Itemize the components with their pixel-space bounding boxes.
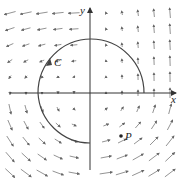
field-arrow [151, 121, 156, 129]
field-arrow [24, 60, 28, 62]
field-arrow [132, 170, 144, 175]
field-arrow [25, 105, 27, 113]
field-arrow [137, 106, 140, 112]
field-arrow [102, 140, 110, 142]
field-arrow [54, 155, 63, 159]
field-arrow [170, 24, 171, 34]
field-arrow [52, 12, 63, 13]
field-arrow [69, 172, 80, 174]
field-arrow [22, 28, 31, 30]
field-arrow [135, 122, 140, 128]
field-arrow [38, 154, 47, 160]
field-arrow [8, 120, 12, 130]
field-arrow [149, 170, 160, 177]
field-arrow [5, 169, 14, 178]
field-arrow [122, 27, 123, 31]
field-arrow [9, 104, 11, 114]
field-arrow [73, 77, 75, 78]
field-arrow [53, 171, 64, 175]
field-arrow [122, 11, 123, 15]
field-arrow [105, 108, 108, 110]
field-arrow [165, 153, 174, 162]
field-arrow [138, 10, 139, 16]
field-arrow [4, 12, 15, 15]
field-arrow [68, 13, 79, 14]
field-arrow [134, 138, 142, 144]
field-arrow [24, 121, 28, 129]
field-arrow [149, 153, 159, 161]
field-arrow [22, 153, 31, 161]
y-axis-label: y [79, 4, 85, 16]
field-arrow [169, 104, 172, 114]
field-arrow [70, 156, 79, 158]
field-arrow [119, 123, 124, 127]
field-arrow [70, 29, 79, 30]
curve-label: C [54, 56, 62, 68]
field-arrow [57, 107, 59, 111]
field-arrow [7, 44, 14, 47]
field-arrow [133, 154, 144, 160]
point-label: P [124, 130, 132, 142]
field-arrow [6, 28, 15, 31]
field-arrow [150, 137, 158, 145]
field-arrow [8, 60, 12, 63]
field-arrow [41, 76, 43, 78]
field-arrow [56, 123, 60, 127]
field-arrow [39, 138, 45, 144]
field-arrow [72, 124, 76, 126]
field-arrow [37, 170, 48, 176]
field-arrow [106, 12, 107, 14]
vector-field-diagram: y x C P [0, 0, 188, 182]
field-arrow [21, 169, 31, 177]
field-arrow [38, 28, 47, 30]
field-arrow [167, 120, 172, 130]
curve-c [38, 39, 144, 143]
field-arrow [103, 124, 108, 126]
field-arrow [73, 108, 75, 110]
field-arrow [55, 44, 62, 45]
field-arrow [72, 61, 76, 62]
field-arrow [23, 137, 29, 145]
point-p [119, 134, 123, 138]
field-arrow [40, 122, 44, 128]
field-arrow [165, 169, 175, 177]
field-arrow [20, 12, 31, 14]
x-axis-label: x [170, 93, 176, 105]
field-arrow [9, 76, 11, 79]
field-arrow [57, 76, 59, 77]
field-arrow [39, 44, 46, 46]
field-arrow [40, 60, 44, 62]
field-arrow [23, 44, 30, 46]
field-arrow [55, 139, 61, 143]
field-arrow [106, 28, 107, 30]
field-arrow [116, 171, 128, 175]
field-arrow [100, 172, 113, 174]
field-arrow [54, 28, 63, 29]
field-arrow [7, 136, 13, 146]
field-arrow [166, 136, 174, 146]
field-arrow [170, 8, 171, 18]
field-arrow [101, 156, 112, 158]
field-arrow [153, 105, 156, 113]
field-arrow [138, 26, 139, 32]
field-arrow [121, 107, 124, 111]
field-arrow [25, 76, 27, 78]
field-arrow [6, 152, 14, 162]
field-arrow [154, 25, 155, 33]
field-arrow [154, 9, 155, 17]
field-arrow [36, 12, 47, 14]
field-arrow [71, 45, 78, 46]
field-arrow [117, 155, 128, 159]
